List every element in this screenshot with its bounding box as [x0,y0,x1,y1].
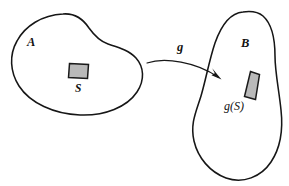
figure-canvas: A B S g(S) g [0,0,289,186]
blob-region-B [193,11,282,180]
set-mapping-diagram [0,0,289,186]
label-set-a: A [27,36,35,49]
label-map-g: g [177,41,183,54]
label-subset-s: S [75,83,81,95]
label-image-gs: g(S) [224,100,244,112]
subset-S-shape [69,64,89,79]
label-set-b: B [241,37,249,50]
